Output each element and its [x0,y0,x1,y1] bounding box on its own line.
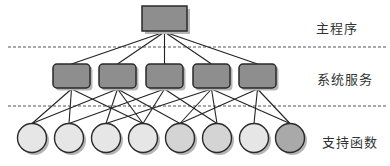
root-to-service-link [165,32,212,64]
support-function-circle [18,124,47,153]
level-label-main-program: 主程序 [316,18,358,37]
support-function-circle [129,124,158,153]
system-service-box [239,64,276,88]
main-program-box [142,6,187,31]
level-label-system-services: 系统服务 [317,69,373,88]
root-to-service-link [118,32,165,64]
system-service-box [53,64,90,88]
level-label-support-functions: 支持函数 [322,132,378,151]
support-function-circle [240,124,269,153]
root-to-service-link [72,32,165,64]
root-to-service-link [165,32,258,64]
support-function-circle [276,124,305,153]
system-service-nodes [53,64,279,91]
service-to-function-link [212,89,218,124]
service-to-function-link [143,89,165,124]
support-function-circle [203,124,232,153]
main-program-node [142,6,190,34]
support-function-nodes [18,124,308,156]
support-function-circle [55,124,84,153]
support-function-circle [166,124,195,153]
system-service-box [99,64,136,88]
system-service-box [193,64,230,88]
support-function-circle [92,124,121,153]
system-service-box [146,64,183,88]
